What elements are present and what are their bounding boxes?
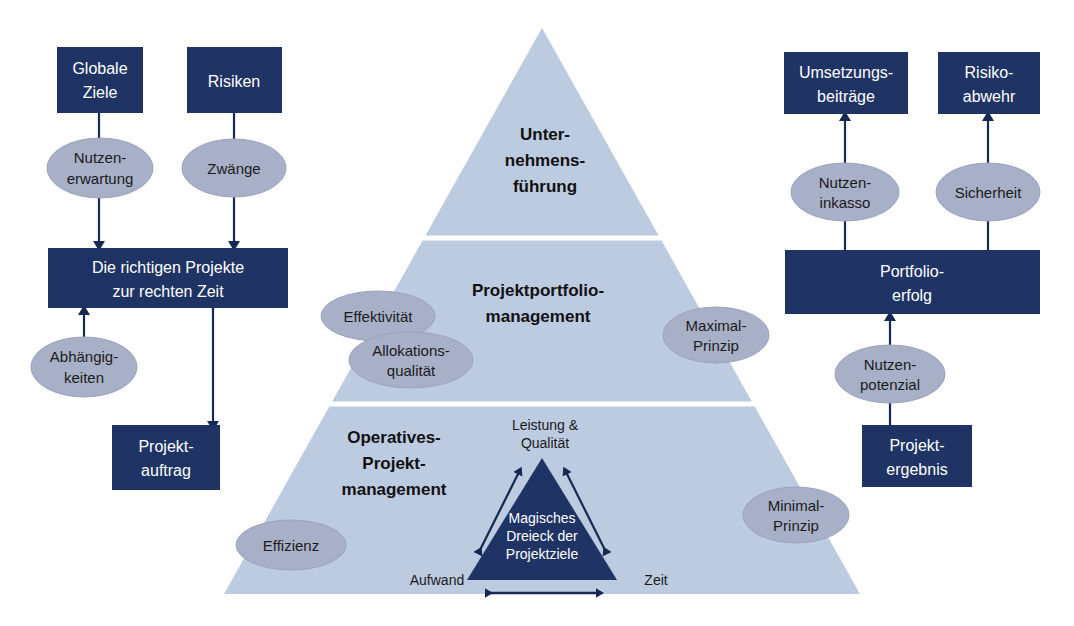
- magic-triangle-right-label: Zeit: [644, 572, 667, 588]
- oval-abhaengigkeiten-shape: [31, 337, 137, 397]
- oval-abhaengigkeiten-line-2: keiten: [64, 369, 104, 386]
- oval-sicherheit: Sicherheit: [936, 163, 1040, 221]
- tier-top-line-1: Unter-: [520, 125, 570, 144]
- oval-sicherheit-label: Sicherheit: [955, 184, 1023, 201]
- magic-triangle-line-2: Dreieck der: [506, 528, 578, 544]
- oval-effektivitaet-label: Effektivität: [344, 308, 414, 325]
- oval-nutzenpotenzial-shape: [835, 345, 945, 403]
- tier-middle-line-1: Projektportfolio-: [472, 281, 604, 300]
- magic-triangle-line-1: Magisches: [509, 510, 576, 526]
- oval-nutzenerwartung-line-2: erwartung: [67, 170, 134, 187]
- oval-maximal-prinzip-line-1: Maximal-: [686, 317, 747, 334]
- oval-nutzeninkasso-line-1: Nutzen-: [819, 174, 872, 191]
- oval-effizienz-label: Effizienz: [263, 537, 319, 554]
- box-risiken: Risiken: [187, 47, 282, 113]
- oval-nutzeninkasso-shape: [791, 163, 899, 221]
- tier-top-line-3: führung: [513, 177, 577, 196]
- oval-nutzenerwartung-shape: [47, 138, 153, 198]
- box-globale-ziele-shape: [57, 47, 143, 113]
- box-risikoabwehr-line-2: abwehr: [963, 88, 1016, 105]
- oval-nutzenerwartung-line-1: Nutzen-: [74, 149, 127, 166]
- box-globale-ziele-line-2: Ziele: [83, 84, 118, 101]
- oval-allokationsqualitaet-line-1: Allokations-: [372, 342, 450, 359]
- tier-bottom-line-2: Projekt-: [362, 454, 425, 473]
- box-portfolioerfolg-shape: [785, 250, 1040, 314]
- box-projektauftrag-shape: [112, 425, 220, 490]
- box-projektergebnis-line-2: ergebnis: [886, 461, 947, 478]
- oval-effizienz: Effizienz: [236, 520, 346, 570]
- oval-zwaenge: Zwänge: [182, 139, 286, 197]
- oval-abhaengigkeiten: Abhängig- keiten: [31, 337, 137, 397]
- oval-allokationsqualitaet-line-2: qualität: [387, 362, 436, 379]
- oval-allokationsqualitaet: Allokations- qualität: [349, 332, 473, 388]
- oval-zwaenge-label: Zwänge: [207, 160, 260, 177]
- box-richtige-projekte-line-2: zur rechten Zeit: [112, 283, 224, 300]
- oval-minimal-prinzip: Minimal- Prinzip: [743, 487, 849, 543]
- magic-triangle-top-label-2: Qualität: [521, 435, 569, 451]
- magic-triangle-line-3: Projektziele: [506, 546, 579, 562]
- box-richtige-projekte-line-1: Die richtigen Projekte: [92, 259, 244, 276]
- oval-maximal-prinzip-line-2: Prinzip: [693, 337, 739, 354]
- box-portfolioerfolg: Portfolio- erfolg: [785, 250, 1040, 314]
- box-risiken-label: Risiken: [208, 73, 260, 90]
- box-projektauftrag-line-2: auftrag: [141, 462, 191, 479]
- oval-nutzeninkasso-line-2: inkasso: [820, 194, 871, 211]
- oval-maximal-prinzip-shape: [663, 307, 769, 363]
- oval-nutzeninkasso: Nutzen- inkasso: [791, 163, 899, 221]
- magic-triangle-top-label-1: Leistung &: [512, 417, 579, 433]
- oval-minimal-prinzip-line-2: Prinzip: [773, 517, 819, 534]
- oval-maximal-prinzip: Maximal- Prinzip: [663, 307, 769, 363]
- pyramid-diagram: Unter- nehmens- führung Projektportfolio…: [0, 0, 1074, 626]
- box-umsetzungsbeitraege: Umsetzungs- beiträge: [784, 52, 908, 114]
- box-richtige-projekte: Die richtigen Projekte zur rechten Zeit: [48, 248, 288, 308]
- box-globale-ziele-line-1: Globale: [72, 60, 127, 77]
- box-portfolioerfolg-line-1: Portfolio-: [880, 263, 944, 280]
- tier-middle-line-2: management: [486, 307, 591, 326]
- box-projektergebnis-line-1: Projekt-: [889, 437, 944, 454]
- oval-minimal-prinzip-line-1: Minimal-: [768, 497, 825, 514]
- oval-minimal-prinzip-shape: [743, 487, 849, 543]
- tier-bottom-line-3: management: [342, 480, 447, 499]
- box-risikoabwehr: Risiko- abwehr: [938, 52, 1040, 114]
- oval-nutzenerwartung: Nutzen- erwartung: [47, 138, 153, 198]
- oval-abhaengigkeiten-line-1: Abhängig-: [50, 348, 118, 365]
- oval-allokationsqualitaet-shape: [349, 332, 473, 388]
- tier-top-line-2: nehmens-: [505, 151, 585, 170]
- box-umsetzungsbeitraege-line-2: beiträge: [817, 88, 875, 105]
- diagram-canvas: Unter- nehmens- führung Projektportfolio…: [0, 0, 1074, 626]
- oval-nutzenpotenzial-line-2: potenzial: [860, 376, 920, 393]
- box-globale-ziele: Globale Ziele: [57, 47, 143, 113]
- tier-bottom-line-1: Operatives-: [347, 428, 441, 447]
- box-risikoabwehr-line-1: Risiko-: [965, 64, 1014, 81]
- box-umsetzungsbeitraege-line-1: Umsetzungs-: [799, 64, 893, 81]
- box-projektergebnis: Projekt- ergebnis: [862, 425, 972, 487]
- box-projektauftrag-line-1: Projekt-: [138, 438, 193, 455]
- box-portfolioerfolg-line-2: erfolg: [892, 287, 932, 304]
- oval-nutzenpotenzial: Nutzen- potenzial: [835, 345, 945, 403]
- magic-triangle-left-label: Aufwand: [410, 572, 464, 588]
- box-projektauftrag: Projekt- auftrag: [112, 425, 220, 490]
- oval-nutzenpotenzial-line-1: Nutzen-: [864, 356, 917, 373]
